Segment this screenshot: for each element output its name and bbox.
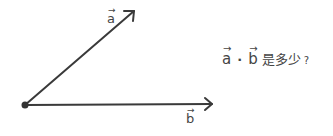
vector-arrow-icon: → bbox=[249, 43, 257, 54]
vector-a-label: → a bbox=[107, 12, 115, 25]
vector-arrow-icon: → bbox=[223, 43, 231, 54]
question-vector-a: → a bbox=[222, 50, 231, 68]
vector-arrow-icon: → bbox=[108, 6, 116, 15]
question-mark: ? bbox=[304, 55, 309, 66]
vector-a-line bbox=[25, 11, 134, 105]
dot-operator: · bbox=[237, 52, 242, 67]
origin-point bbox=[22, 102, 29, 109]
question-vector-b: → b bbox=[248, 50, 258, 68]
vector-arrow-icon: → bbox=[187, 106, 195, 115]
vector-b-label: → b bbox=[186, 112, 194, 125]
vector-b-line bbox=[25, 104, 212, 105]
vector-diagram bbox=[0, 0, 333, 136]
question-text: → a · → b 是多少 ? bbox=[222, 49, 309, 68]
question-phrase: 是多少 bbox=[262, 49, 301, 68]
